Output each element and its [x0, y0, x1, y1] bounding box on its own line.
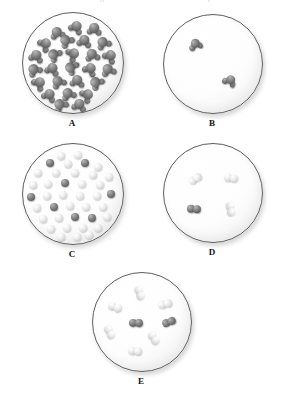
atom-light — [103, 213, 112, 222]
atom-light — [71, 169, 80, 178]
panel-label-b: B — [163, 118, 261, 128]
atom-light — [59, 191, 68, 200]
atom-light — [93, 192, 102, 201]
panel-label-a: A — [22, 118, 122, 128]
atom-light — [89, 171, 98, 180]
atom-light — [33, 204, 42, 213]
flask-a — [22, 12, 124, 114]
panel-label-c: C — [22, 249, 122, 259]
panel-e: E — [92, 272, 190, 396]
atom-light — [73, 233, 82, 242]
panel-label-e: E — [92, 376, 190, 386]
atom-light — [64, 160, 73, 169]
atom-light — [94, 224, 103, 233]
atom-light — [134, 347, 143, 356]
atom-dark — [193, 205, 202, 214]
flask-d — [163, 143, 263, 243]
atom-light — [63, 224, 72, 233]
atom-light — [55, 214, 64, 223]
atom-dark — [81, 159, 90, 168]
atom-light — [94, 163, 103, 172]
atom-dark — [89, 23, 99, 33]
panel-c: C — [22, 143, 122, 269]
atom-dark — [88, 214, 97, 223]
atom-light — [57, 233, 66, 242]
atom-light — [76, 192, 85, 201]
panel-a: A — [22, 12, 122, 138]
atom-dark — [167, 316, 177, 326]
atom-dark — [61, 179, 70, 188]
atom-light — [112, 303, 122, 313]
atom-light — [85, 231, 94, 240]
panel-d: D — [163, 143, 261, 267]
atom-light — [43, 192, 52, 201]
molecular-diagram-figure: g p A B C D E — [0, 0, 289, 396]
atom-dark — [46, 159, 55, 168]
atom-light — [57, 152, 66, 161]
atom-dark — [135, 319, 143, 327]
atom-dark — [27, 193, 36, 202]
atom-dark — [87, 49, 97, 59]
flask-b — [163, 14, 263, 114]
flask-c — [22, 143, 124, 245]
atom-light — [227, 207, 237, 217]
atom-dark — [50, 203, 59, 212]
atom-dark — [71, 213, 80, 222]
atom-light — [105, 173, 114, 182]
atom-light — [136, 291, 146, 301]
atom-light — [78, 180, 87, 189]
cropped-text-left: g — [100, 0, 104, 2]
atom-light — [29, 181, 38, 190]
atom-light — [52, 169, 61, 178]
atom-light — [39, 215, 48, 224]
atom-dark — [33, 76, 46, 89]
atom-light — [34, 169, 43, 178]
atom-light — [44, 180, 53, 189]
panel-b: B — [163, 14, 261, 138]
atom-light — [82, 203, 91, 212]
cropped-top-text: g p — [0, 0, 289, 9]
atom-light — [74, 151, 83, 160]
atom-light — [96, 181, 105, 190]
atom-light — [229, 174, 238, 183]
panel-label-d: D — [163, 247, 261, 257]
cropped-text-right: p — [208, 0, 212, 2]
atom-light — [66, 202, 75, 211]
atom-light — [47, 225, 56, 234]
atom-light — [99, 203, 108, 212]
atom-dark — [107, 190, 116, 199]
flask-e — [92, 272, 192, 372]
